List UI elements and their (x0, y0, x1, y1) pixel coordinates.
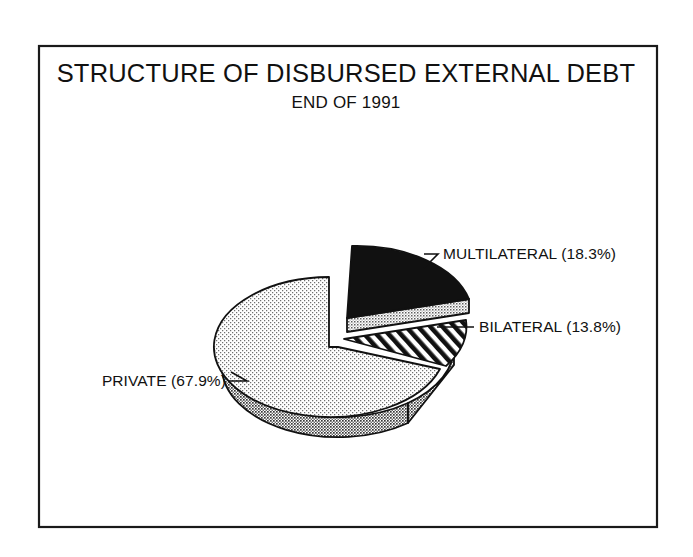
private-label: PRIVATE (67.9%) (102, 372, 226, 389)
pie-chart-figure: STRUCTURE OF DISBURSED EXTERNAL DEBT END… (0, 0, 693, 557)
chart-title: STRUCTURE OF DISBURSED EXTERNAL DEBT (57, 59, 636, 87)
chart-border (39, 46, 657, 527)
bilateral-label: BILATERAL (13.8%) (479, 318, 621, 335)
multilateral-label: MULTILATERAL (18.3%) (443, 245, 616, 262)
chart-subtitle: END OF 1991 (292, 93, 401, 112)
